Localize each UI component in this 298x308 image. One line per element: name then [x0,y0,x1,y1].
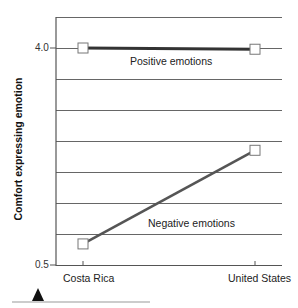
square-marker-icon [250,145,260,155]
ytick-label-top: 4.0 [35,42,49,53]
triangle-marker-icon [32,288,44,301]
category-united-states: United States [228,272,291,284]
y-axis-label: Comfort expressing emotion [12,64,26,234]
ytick-label-bottom: 0.5 [35,259,49,270]
square-marker-icon [78,239,88,249]
series-line [83,48,255,49]
square-marker-icon [78,43,88,53]
category-costa-rica: Costa Rica [63,272,114,284]
square-marker-icon [250,44,260,54]
series-line [83,150,255,244]
positive-emotions-label: Positive emotions [130,55,212,67]
negative-emotions-label: Negative emotions [148,217,235,229]
